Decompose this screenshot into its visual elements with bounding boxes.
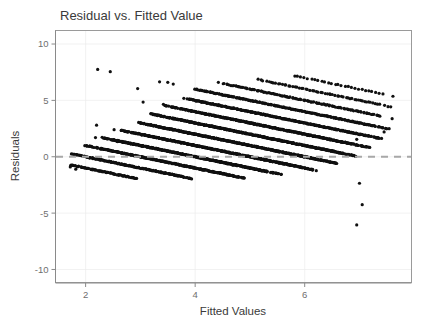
x-tick-label: 6 [302,289,307,300]
y-tick-label: -5 [40,208,48,219]
data-point [378,115,381,118]
data-point [370,90,373,93]
data-point [308,89,311,92]
data-point [217,81,220,84]
data-point [301,87,304,90]
data-point [313,78,316,81]
data-point [311,168,314,171]
data-point [368,146,371,149]
data-point [374,125,377,128]
data-point-outlier [94,136,97,139]
y-tick-label: -10 [35,264,49,275]
data-point [388,127,391,130]
data-point [369,135,372,138]
data-point [335,162,338,165]
data-point [372,113,375,116]
data-point [367,134,370,137]
data-point [257,78,260,81]
data-point-outlier [355,223,358,226]
data-point [253,88,256,91]
data-point [391,95,394,98]
data-point [350,97,353,100]
data-point [127,130,130,133]
data-point-outlier [69,165,72,168]
data-point [299,98,302,101]
data-point [316,79,319,82]
data-point [381,126,384,129]
data-point [378,103,381,106]
data-point [357,88,360,91]
data-point [288,85,291,88]
data-point-outlier [361,203,364,206]
data-point [361,88,364,91]
data-point [288,95,291,98]
data-point-outlier [172,82,175,85]
x-axis-label: Fitted Values [200,305,267,317]
data-point [389,105,392,108]
data-point [341,95,344,98]
data-point [321,91,324,94]
y-tick-label: 10 [38,38,49,49]
data-point [339,84,342,87]
data-point [274,82,277,85]
data-point [296,75,299,78]
data-point [245,87,248,90]
data-point [190,177,193,180]
data-point [316,91,319,94]
data-point [261,79,264,82]
data-point [347,85,350,88]
data-point-outlier [166,81,169,84]
data-point [364,89,367,92]
data-point [284,83,287,86]
data-point [135,177,138,180]
data-point [340,106,343,109]
data-point [383,104,386,107]
data-point [380,137,383,140]
data-point [356,144,359,147]
data-point-outlier [355,138,358,141]
data-point [377,92,380,95]
data-point-outlier [158,80,161,83]
data-point [310,77,313,80]
data-point-outlier [116,140,119,143]
data-point [330,82,333,85]
figure-background [0,0,431,327]
data-point-outlier [358,182,361,185]
data-point [265,170,268,173]
chart-canvas: Residual vs. Fitted Value 1050-5-10 246 … [0,0,431,327]
data-point [391,117,394,120]
data-point [241,176,244,179]
data-point-outlier [74,168,77,171]
data-point [315,169,318,172]
x-tick-label: 4 [193,289,198,300]
data-point [237,175,240,178]
data-point [367,89,370,92]
data-point-outlier [109,70,112,73]
data-point [350,86,353,89]
x-tick-label: 2 [83,289,88,300]
data-point-outlier [136,87,139,90]
data-point [302,76,305,79]
data-point [374,91,377,94]
data-point [359,110,362,113]
data-point [306,88,309,91]
data-point [385,127,388,130]
data-point [303,99,306,102]
data-point-outlier [113,128,116,131]
y-tick-label: 5 [43,95,48,106]
data-point [381,92,384,95]
data-point-outlier [95,124,98,127]
data-point-outlier [96,68,99,71]
data-point [306,77,309,80]
data-point-outlier [162,103,165,106]
data-point [222,82,225,85]
data-point [337,95,340,98]
data-point [362,111,365,114]
data-point [280,173,283,176]
data-point [333,94,336,97]
chart-title: Residual vs. Fitted Value [60,8,203,23]
y-tick-label: 0 [43,151,48,162]
data-point-outlier [142,100,145,103]
data-point [182,97,185,100]
data-point [353,87,356,90]
